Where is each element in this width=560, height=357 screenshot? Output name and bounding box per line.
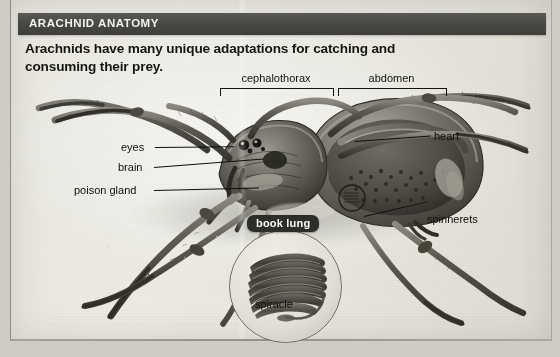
callout-label-spinnerets: spinnerets [427,213,478,225]
callout-label-brain: brain [118,161,142,173]
region-label-cephalothorax: cephalothorax [220,72,332,84]
callout-label-poison-gland: poison gland [74,184,136,196]
callout-label-heart: heart [434,130,459,142]
paper-sheet: ARACHNID ANATOMY Arachnids have many uni… [10,0,552,341]
page-title: ARACHNID ANATOMY [29,17,159,29]
book-lung-magnifier-inset [229,230,342,343]
region-label-abdomen: abdomen [338,72,445,84]
book-lung-badge[interactable]: book lung [247,215,319,232]
callout-label-eyes: eyes [121,141,144,153]
headline-text: Arachnids have many unique adaptations f… [25,40,425,75]
bracket-cephalothorax [220,88,334,96]
section-title-bar: ARACHNID ANATOMY [18,13,546,35]
spiracle-opening [277,314,295,321]
book-lung-detail [230,231,341,342]
figure-page: ARACHNID ANATOMY Arachnids have many uni… [0,0,560,357]
inset-label-spiracle: spiracle [255,298,293,310]
bracket-abdomen [338,88,447,96]
